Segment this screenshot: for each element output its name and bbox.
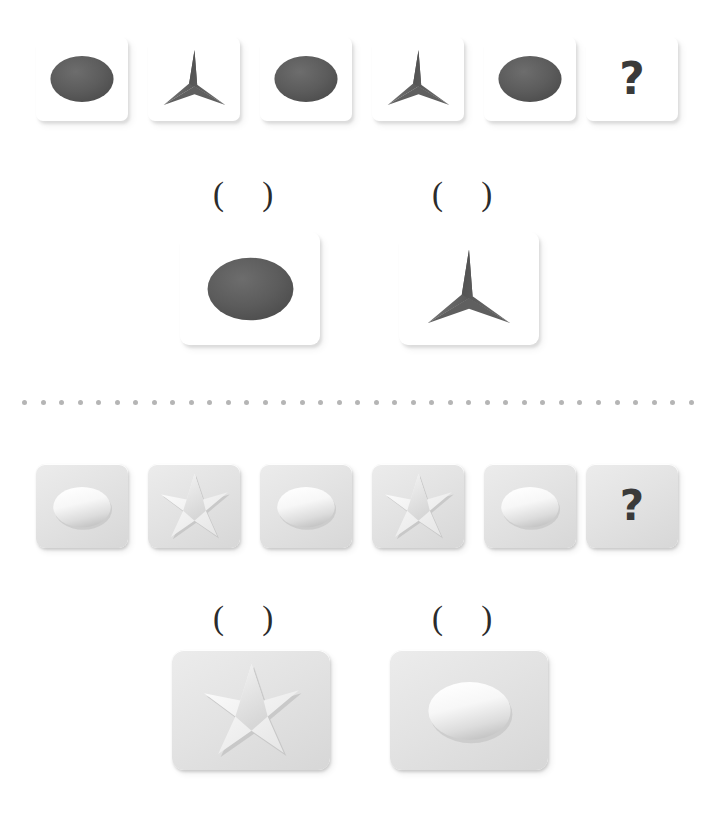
star-4-icon — [372, 464, 464, 548]
divider-dot — [244, 400, 249, 405]
sequence-cell-4 — [372, 464, 464, 548]
puzzle-stage: ?( )( )?( )( ) — [0, 0, 716, 831]
divider-dot — [448, 400, 453, 405]
ellipse-icon — [260, 464, 352, 548]
divider-dot — [670, 400, 675, 405]
divider-dot — [355, 400, 360, 405]
sequence-cell-2 — [148, 464, 240, 548]
divider-dot — [577, 400, 582, 405]
divider-dot — [429, 400, 434, 405]
divider-dot — [300, 400, 305, 405]
answer-blank[interactable]: ( ) — [432, 602, 507, 635]
divider-dot — [152, 400, 157, 405]
sequence-cell-1 — [36, 37, 128, 121]
divider-dot — [392, 400, 397, 405]
divider-dot — [22, 400, 27, 405]
star-3-icon — [372, 37, 464, 121]
divider-dot — [78, 400, 83, 405]
dotted-separator — [22, 400, 694, 405]
divider-dot — [374, 400, 379, 405]
answer-blank[interactable]: ( ) — [432, 178, 507, 211]
divider-dot — [503, 400, 508, 405]
star-3-icon — [399, 232, 539, 345]
ellipse-icon — [260, 37, 352, 121]
divider-dot — [133, 400, 138, 405]
divider-dot — [337, 400, 342, 405]
divider-dot — [263, 400, 268, 405]
sequence-cell-3 — [260, 37, 352, 121]
answer-blank[interactable]: ( ) — [213, 602, 288, 635]
divider-dot — [41, 400, 46, 405]
sequence-cell-5 — [484, 37, 576, 121]
ellipse-icon — [36, 464, 128, 548]
answer-blank[interactable]: ( ) — [213, 178, 288, 211]
divider-dot — [411, 400, 416, 405]
divider-dot — [615, 400, 620, 405]
star-3-icon — [148, 37, 240, 121]
star-4-icon — [172, 650, 330, 770]
question-mark-icon: ? — [586, 37, 678, 121]
divider-dot — [596, 400, 601, 405]
divider-dot — [466, 400, 471, 405]
sequence-cell-5 — [484, 464, 576, 548]
divider-dot — [170, 400, 175, 405]
ellipse-icon — [390, 650, 548, 770]
sequence-cell-4 — [372, 37, 464, 121]
sequence-cell-2 — [148, 37, 240, 121]
sequence-cell-6: ? — [586, 37, 678, 121]
divider-dot — [96, 400, 101, 405]
option-card-b[interactable] — [399, 232, 539, 345]
option-card-a[interactable] — [180, 232, 320, 345]
divider-dot — [115, 400, 120, 405]
divider-dot — [633, 400, 638, 405]
sequence-cell-6: ? — [586, 464, 678, 548]
ellipse-icon — [484, 464, 576, 548]
option-card-a[interactable] — [172, 650, 330, 770]
sequence-cell-3 — [260, 464, 352, 548]
divider-dot — [189, 400, 194, 405]
divider-dot — [522, 400, 527, 405]
ellipse-icon — [36, 37, 128, 121]
star-4-icon — [148, 464, 240, 548]
sequence-cell-1 — [36, 464, 128, 548]
ellipse-icon — [180, 232, 320, 345]
divider-dot — [652, 400, 657, 405]
divider-dot — [226, 400, 231, 405]
divider-dot — [540, 400, 545, 405]
divider-dot — [689, 400, 694, 405]
question-mark-icon: ? — [586, 464, 678, 548]
divider-dot — [59, 400, 64, 405]
divider-dot — [485, 400, 490, 405]
divider-dot — [281, 400, 286, 405]
ellipse-icon — [484, 37, 576, 121]
divider-dot — [318, 400, 323, 405]
option-card-b[interactable] — [390, 650, 548, 770]
divider-dot — [207, 400, 212, 405]
divider-dot — [559, 400, 564, 405]
